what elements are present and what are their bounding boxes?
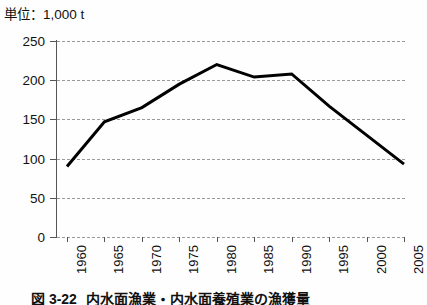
x-tick-1975 — [179, 237, 180, 242]
x-tick-label-1995: 1995 — [336, 245, 351, 305]
caption-number: 図 3-22 — [31, 291, 77, 305]
caption-text: 内水面漁業・内水面養殖業の漁獲量 — [86, 291, 310, 305]
gridline-200 — [57, 80, 405, 81]
y-tick-label-250: 250 — [22, 34, 45, 49]
x-tick-1970 — [142, 237, 143, 242]
x-tick-1980 — [217, 237, 218, 242]
y-tick-200 — [50, 80, 57, 81]
x-tick-label-2000: 2000 — [374, 245, 389, 305]
y-tick-label-150: 150 — [22, 112, 45, 127]
y-tick-label-100: 100 — [22, 151, 45, 166]
x-tick-1990 — [292, 237, 293, 242]
x-tick-2005 — [404, 237, 405, 242]
y-tick-label-200: 200 — [22, 73, 45, 88]
gridline-150 — [57, 119, 405, 120]
figure-container: 単位：1,000 t 250 200 150 100 50 0 1960 196… — [0, 0, 427, 305]
x-tick-1965 — [104, 237, 105, 242]
y-tick-50 — [50, 198, 57, 199]
y-tick-100 — [50, 159, 57, 160]
y-tick-0 — [50, 237, 57, 238]
gridline-50 — [57, 198, 405, 199]
x-tick-label-2005: 2005 — [411, 245, 426, 305]
x-tick-2000 — [367, 237, 368, 242]
gridline-100 — [57, 159, 405, 160]
plot-area — [57, 41, 405, 237]
gridline-0 — [57, 237, 405, 238]
unit-note: 単位：1,000 t — [4, 3, 84, 23]
x-tick-1960 — [67, 237, 68, 242]
y-tick-250 — [50, 41, 57, 42]
y-tick-label-0: 0 — [37, 230, 45, 245]
figure-caption: 図 3-22内水面漁業・内水面養殖業の漁獲量 — [31, 288, 310, 305]
gridline-250 — [57, 41, 405, 42]
y-axis-spine — [56, 40, 57, 238]
y-tick-150 — [50, 119, 57, 120]
x-tick-1995 — [329, 237, 330, 242]
y-tick-label-50: 50 — [30, 190, 45, 205]
x-tick-1985 — [254, 237, 255, 242]
